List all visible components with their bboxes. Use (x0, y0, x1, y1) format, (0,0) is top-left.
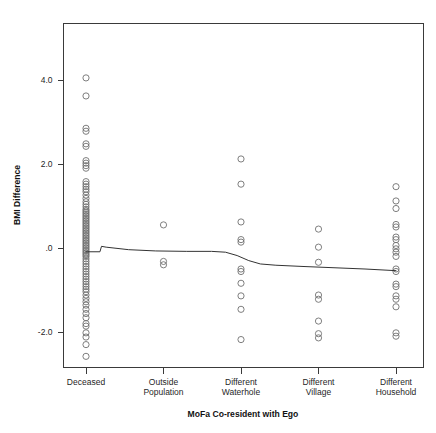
data-point (315, 259, 321, 265)
y-tick-label: -2.0 (38, 327, 53, 337)
data-point (315, 335, 321, 341)
trend-line (86, 246, 396, 270)
y-axis-title: BMI Difference (12, 165, 22, 225)
data-point-group (83, 75, 399, 360)
y-tick-label: .0 (45, 243, 52, 253)
data-point (315, 318, 321, 324)
x-tick-label: Population (143, 387, 183, 397)
data-point (315, 244, 321, 250)
x-tick-label: Deceased (67, 377, 106, 387)
data-point (160, 222, 166, 228)
data-point (83, 334, 89, 340)
x-tick-label: Waterhole (222, 387, 261, 397)
data-point (238, 219, 244, 225)
data-point (83, 342, 89, 348)
x-tick-labels: DeceasedOutsidePopulationDifferentWaterh… (67, 377, 417, 398)
data-point (83, 315, 89, 321)
y-tick-label: 4.0 (41, 75, 53, 85)
y-tick-labels: 4.02.0.0-2.0 (38, 75, 53, 337)
x-tick-label: Village (306, 387, 332, 397)
data-point (83, 75, 89, 81)
x-tick-label: Outside (149, 377, 179, 387)
scatter-plot-canvas: 4.02.0.0-2.0 DeceasedOutsidePopulationDi… (0, 0, 436, 433)
data-point (238, 156, 244, 162)
data-point (315, 296, 321, 302)
x-tick-label: Different (303, 377, 336, 387)
y-tick-label: 2.0 (41, 159, 53, 169)
x-tick-label: Different (380, 377, 413, 387)
data-point (238, 306, 244, 312)
data-point (393, 253, 399, 259)
chart-figure: 4.02.0.0-2.0 DeceasedOutsidePopulationDi… (0, 0, 436, 433)
data-point (238, 181, 244, 187)
data-point (315, 226, 321, 232)
data-point (393, 198, 399, 204)
data-point (393, 184, 399, 190)
plot-frame (64, 24, 424, 368)
x-axis-title: MoFa Co-resident with Ego (188, 409, 299, 419)
data-point (83, 93, 89, 99)
data-point (238, 280, 244, 286)
x-axis-ticks (86, 368, 396, 374)
y-axis-ticks (58, 80, 64, 332)
data-point (393, 304, 399, 310)
data-point (393, 205, 399, 211)
x-tick-label: Different (225, 377, 258, 387)
x-tick-label: Household (376, 387, 417, 397)
data-point (238, 336, 244, 342)
data-point (83, 353, 89, 359)
data-point (238, 293, 244, 299)
